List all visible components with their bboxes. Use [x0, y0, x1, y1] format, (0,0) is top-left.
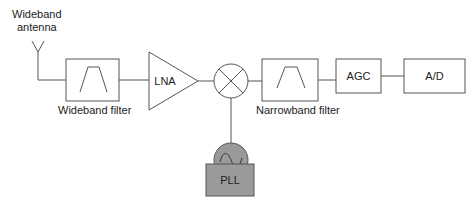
antenna-label: Wideband antenna [12, 8, 62, 34]
wideband-filter-block [66, 59, 119, 101]
mixer-icon [214, 64, 248, 98]
antenna-label-line1: Wideband [12, 8, 62, 21]
narrowband-filter-block [262, 59, 318, 101]
narrowband-filter-label: Narrowband filter [256, 104, 340, 116]
pll-label: PLL [206, 164, 254, 196]
wideband-filter-label: Wideband filter [58, 104, 131, 116]
agc-label: AGC [336, 59, 381, 93]
bandpass-icon [277, 67, 305, 88]
lna-label: LNA [149, 66, 181, 96]
antenna-icon [32, 41, 66, 80]
ad-label: A/D [404, 59, 465, 93]
antenna-label-line2: antenna [12, 21, 62, 34]
bandpass-icon [80, 67, 107, 92]
